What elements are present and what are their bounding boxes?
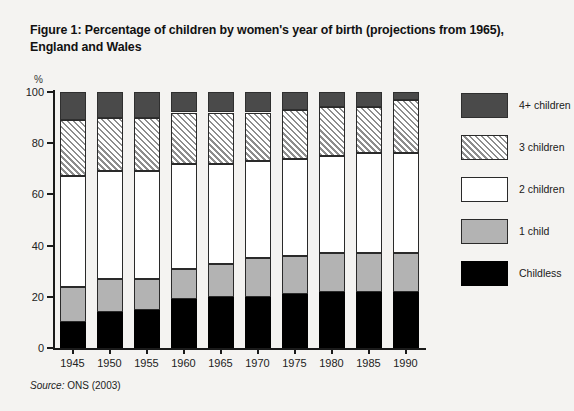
bar-1985[interactable] (356, 92, 382, 348)
bar-segment-4-children[interactable] (393, 92, 419, 100)
bar-segment-3-children[interactable] (282, 110, 308, 159)
bar-segment-3-children[interactable] (356, 107, 382, 153)
legend: 4+ children3 children2 children1 childCh… (461, 93, 571, 303)
bar-segment-childless[interactable] (393, 292, 419, 348)
bar-segment-childless[interactable] (356, 292, 382, 348)
bar-segment-2-children[interactable] (319, 156, 345, 253)
bar-segment-3-children[interactable] (134, 118, 160, 172)
bar-1960[interactable] (171, 92, 197, 348)
legend-swatch-white-fill (461, 177, 508, 202)
bar-segment-4-children[interactable] (60, 92, 86, 120)
bar-1975[interactable] (282, 92, 308, 348)
bar-segment-childless[interactable] (245, 297, 271, 348)
bar-segment-1-child[interactable] (245, 258, 271, 296)
x-axis-tick (368, 348, 370, 354)
bar-segment-3-children[interactable] (319, 107, 345, 156)
bar-segment-4-children[interactable] (171, 92, 197, 112)
legend-item[interactable]: Childless (461, 261, 571, 303)
bar-segment-3-children[interactable] (97, 118, 123, 172)
bar-segment-1-child[interactable] (356, 253, 382, 291)
bar-1980[interactable] (319, 92, 345, 348)
y-axis-tick-label: 80 (4, 138, 44, 148)
y-axis-tick-label: 60 (4, 189, 44, 199)
bar-segment-childless[interactable] (282, 294, 308, 348)
legend-item[interactable]: 2 children (461, 177, 571, 219)
legend-swatch-dark-gray-fill (461, 93, 508, 118)
y-axis-tick (47, 245, 54, 247)
legend-item[interactable]: 3 children (461, 135, 571, 177)
bar-segment-3-children[interactable] (60, 120, 86, 176)
legend-item[interactable]: 4+ children (461, 93, 571, 135)
bar-segment-2-children[interactable] (60, 176, 86, 286)
x-axis-tick (109, 348, 111, 354)
legend-item[interactable]: 1 child (461, 219, 571, 261)
bar-segment-4-children[interactable] (245, 92, 271, 112)
figure-panel: Figure 1: Percentage of children by wome… (0, 0, 574, 411)
bar-segment-4-children[interactable] (282, 92, 308, 110)
bar-segment-1-child[interactable] (208, 264, 234, 297)
y-axis-tick (47, 347, 54, 349)
bar-segment-1-child[interactable] (393, 253, 419, 291)
bar-1945[interactable] (60, 92, 86, 348)
bar-segment-4-children[interactable] (97, 92, 123, 118)
source-label: Source: (30, 380, 64, 391)
y-axis-tick (47, 296, 54, 298)
x-axis-tick (183, 348, 185, 354)
bar-segment-4-children[interactable] (356, 92, 382, 107)
bar-segment-3-children[interactable] (393, 100, 419, 154)
bar-segment-3-children[interactable] (245, 113, 271, 162)
bar-segment-2-children[interactable] (282, 159, 308, 256)
bar-segment-1-child[interactable] (97, 279, 123, 312)
bar-segment-2-children[interactable] (208, 164, 234, 264)
legend-label: 2 children (519, 183, 565, 195)
bar-1950[interactable] (97, 92, 123, 348)
bar-segment-2-children[interactable] (393, 153, 419, 253)
figure-title: Figure 1: Percentage of children by wome… (30, 22, 530, 55)
x-axis-tick-label-1990: 1990 (381, 357, 431, 369)
bar-segment-4-children[interactable] (208, 92, 234, 112)
legend-swatch-black-fill (461, 261, 508, 286)
bar-segment-2-children[interactable] (97, 171, 123, 279)
bar-1970[interactable] (245, 92, 271, 348)
x-axis-tick (294, 348, 296, 354)
bar-segment-3-children[interactable] (208, 113, 234, 164)
bar-segment-3-children[interactable] (171, 113, 197, 164)
y-axis-tick (47, 193, 54, 195)
x-axis-tick (72, 348, 74, 354)
bar-segment-childless[interactable] (208, 297, 234, 348)
bar-segment-4-children[interactable] (134, 92, 160, 118)
y-axis-tick-label: 100 (4, 87, 44, 97)
bar-segment-childless[interactable] (134, 310, 160, 348)
bar-segment-1-child[interactable] (134, 279, 160, 310)
legend-label: 4+ children (519, 99, 571, 111)
bar-segment-1-child[interactable] (171, 269, 197, 300)
bar-segment-4-children[interactable] (319, 92, 345, 107)
bar-segment-childless[interactable] (319, 292, 345, 348)
y-axis-tick-label: 40 (4, 241, 44, 251)
legend-label: Childless (519, 267, 562, 279)
y-axis-tick-label: 20 (4, 292, 44, 302)
bar-segment-1-child[interactable] (319, 253, 345, 291)
x-axis-tick (257, 348, 259, 354)
bar-1955[interactable] (134, 92, 160, 348)
bar-segment-2-children[interactable] (356, 153, 382, 253)
x-axis-tick (220, 348, 222, 354)
bar-segment-1-child[interactable] (60, 287, 86, 323)
bar-segment-childless[interactable] (97, 312, 123, 348)
plot-area (54, 92, 424, 348)
bar-segment-childless[interactable] (171, 299, 197, 348)
source-value: ONS (2003) (64, 380, 120, 391)
bar-segment-childless[interactable] (60, 322, 86, 348)
y-axis-tick (47, 142, 54, 144)
bar-segment-1-child[interactable] (282, 256, 308, 294)
y-axis-labels: 020406080100 (0, 0, 44, 411)
legend-swatch-diagonal-hatch-fill (461, 135, 508, 160)
bar-segment-2-children[interactable] (245, 161, 271, 258)
bar-1990[interactable] (393, 92, 419, 348)
bar-segment-2-children[interactable] (171, 164, 197, 269)
legend-swatch-light-gray-fill (461, 219, 508, 244)
bar-1965[interactable] (208, 92, 234, 348)
x-axis-tick (405, 348, 407, 354)
x-axis-tick (331, 348, 333, 354)
bar-segment-2-children[interactable] (134, 171, 160, 279)
